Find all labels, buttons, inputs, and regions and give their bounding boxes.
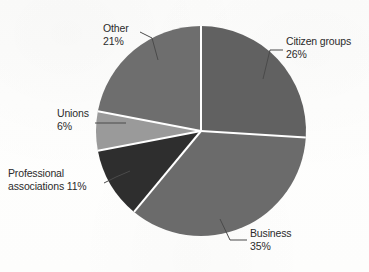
pie-label-other-name: Other [103, 22, 129, 34]
pie-label-citizen-groups-value: 26% [286, 48, 351, 61]
pie-label-citizen-groups-name: Citizen groups [286, 35, 351, 47]
pie-chart-figure: Citizen groups 26% Other 21% Unions 6% P… [0, 0, 369, 272]
pie-label-business-value: 35% [250, 240, 291, 253]
pie-label-business-name: Business [250, 227, 291, 239]
pie-label-professional-associations-name: Professional [8, 167, 64, 179]
pie-label-other-value: 21% [103, 35, 129, 48]
pie-label-unions: Unions 6% [57, 107, 89, 132]
pie-label-professional-associations: Professional associations 11% [8, 167, 87, 192]
pie-label-citizen-groups: Citizen groups 26% [286, 35, 351, 60]
pie-label-business: Business 35% [250, 227, 291, 252]
pie-label-professional-associations-value: associations 11% [8, 180, 87, 193]
pie-label-other: Other 21% [103, 22, 129, 47]
pie-label-unions-name: Unions [57, 107, 89, 119]
pie-label-unions-value: 6% [57, 120, 89, 133]
